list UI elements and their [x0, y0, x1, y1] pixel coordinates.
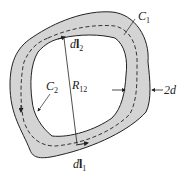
label-c1: C1: [138, 10, 150, 25]
label-dl2: dl2: [70, 38, 83, 53]
label-dl1: dl1: [73, 158, 86, 173]
label-c2: C2: [46, 80, 58, 95]
label-r12: R12: [72, 79, 87, 94]
label-2d: 2d: [164, 84, 176, 96]
loop-diagram: [0, 0, 189, 174]
